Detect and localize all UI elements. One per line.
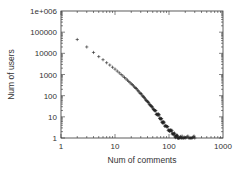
x-tick-label: 1000	[214, 142, 232, 151]
x-tick-label: 1	[59, 142, 64, 151]
y-tick-label: 1e+006	[30, 7, 57, 16]
data-points	[76, 38, 197, 140]
y-tick-label: 1	[53, 134, 58, 143]
x-axis-ticks: 1101001000	[59, 11, 233, 151]
y-tick-label: 100	[44, 92, 58, 101]
y-axis-title: Num of users	[6, 49, 16, 100]
y-tick-label: 10000	[35, 49, 58, 58]
x-axis-title: Num of comments	[108, 155, 177, 165]
scatter-chart: 1101001000 1101001000100001000001e+006 N…	[0, 0, 245, 171]
y-tick-label: 1000	[39, 71, 57, 80]
y-tick-label: 10	[48, 113, 57, 122]
y-axis-ticks: 1101001000100001000001e+006	[30, 7, 223, 143]
plot-frame	[61, 11, 223, 138]
x-tick-label: 10	[111, 142, 120, 151]
x-tick-label: 100	[162, 142, 176, 151]
y-tick-label: 100000	[30, 28, 57, 37]
